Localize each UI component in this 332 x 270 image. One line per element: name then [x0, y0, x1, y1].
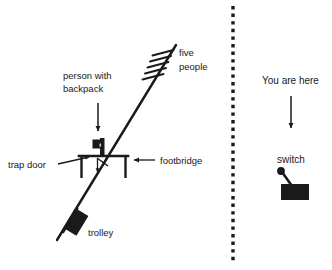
five-people-label-line1: five [179, 47, 194, 58]
five-people-label-line2: people [179, 61, 208, 72]
footbridge-label: footbridge [160, 155, 202, 166]
trolley-problem-diagram: five people person with backpack [0, 0, 332, 270]
you-are-here-label: You are here [262, 75, 319, 86]
switch-label: switch [277, 154, 305, 165]
right-panel-group: You are here switch [262, 75, 319, 200]
lever-switch-graphic [277, 167, 309, 200]
switch-lever-arm [282, 172, 292, 186]
trap-door-label: trap door [8, 159, 46, 170]
left-panel-group: five people person with backpack [8, 45, 208, 240]
person-with-backpack-label-line1: person with [63, 70, 112, 81]
diagram-canvas: five people person with backpack [0, 0, 332, 270]
person-with-backpack-label-line2: backpack [63, 83, 103, 94]
footbridge-structure [79, 156, 128, 178]
switch-base [281, 184, 309, 200]
trolley-label: trolley [88, 227, 114, 238]
person-with-backpack-figure [93, 138, 105, 155]
trap-door-leader-line [58, 157, 89, 164]
switch-lever-knob [277, 167, 285, 175]
